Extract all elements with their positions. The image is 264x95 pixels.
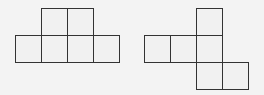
net-square — [196, 62, 223, 90]
net-square — [222, 62, 249, 90]
net-square — [41, 35, 68, 63]
net-square — [196, 35, 223, 63]
net-square — [144, 35, 171, 63]
net-square — [15, 35, 42, 63]
net-square — [67, 35, 94, 63]
net-square — [93, 35, 120, 63]
net-square — [41, 8, 68, 36]
net-square — [196, 8, 223, 36]
net-square — [170, 35, 197, 63]
net-square — [67, 8, 94, 36]
